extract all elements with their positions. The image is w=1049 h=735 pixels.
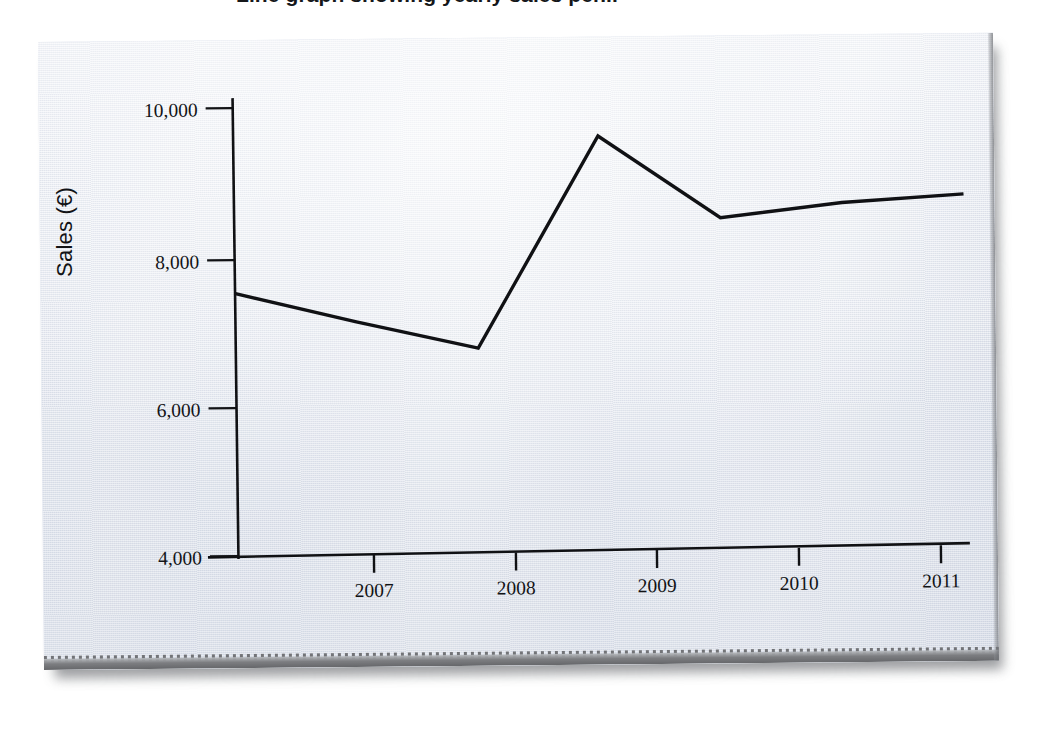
- paper-grain-texture: [38, 33, 999, 670]
- paper-lighting-gradient: [38, 33, 999, 670]
- figure-title-text: Line graph showing yearly sales per...: [236, 0, 618, 7]
- photo-scene: 10,000 8,000 6,000 4,000 2007 2008 2009 …: [0, 0, 1049, 735]
- paper-sheet: [38, 33, 999, 670]
- cropped-figure-title: Line graph showing yearly sales per...: [0, 0, 1049, 13]
